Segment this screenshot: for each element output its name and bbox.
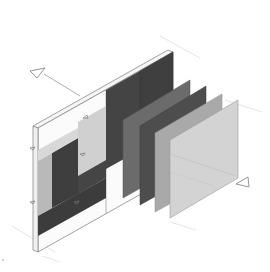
reference-dot [2, 259, 4, 261]
section-marker-bottom-right [236, 177, 249, 187]
inset-light-left [38, 153, 52, 216]
diagram-canvas [0, 0, 270, 272]
triangle-marker-icon [236, 177, 249, 187]
section-marker-top-left [30, 68, 80, 96]
triangle-marker-icon [30, 68, 45, 78]
wall-assembly-diagram: exploded-axonometric-wall-assembly [0, 0, 270, 272]
